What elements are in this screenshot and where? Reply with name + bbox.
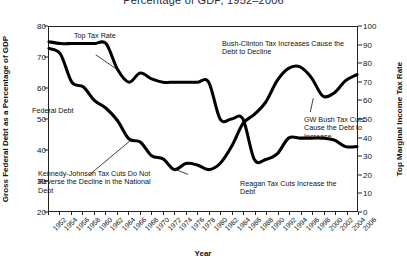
y-tick-mark-right [358, 81, 362, 82]
x-tick-mark [255, 212, 256, 215]
x-tick-mark [301, 212, 302, 215]
y-tick-mark-right [358, 63, 362, 64]
x-tick-mark [266, 212, 267, 215]
y-axis-left-title-text: Gross Federal Debt as a Percentage of GD… [1, 36, 10, 202]
x-tick-mark [117, 212, 118, 215]
x-tick-mark [82, 212, 83, 215]
x-tick-mark [289, 212, 290, 215]
y-tick-mark-right [358, 156, 362, 157]
y-tick-label-left: 20 [24, 208, 46, 217]
y-axis-right-title-text: Top Marginal Income Tax Rate [395, 62, 404, 176]
y-tick-label-right: 80 [363, 59, 385, 68]
y-tick-label-left: 60 [24, 84, 46, 93]
y-tick-label-left: 70 [24, 53, 46, 62]
x-tick-mark [105, 212, 106, 215]
y-tick-mark-right [358, 26, 362, 27]
annotation-top-tax-rate: Top Tax Rate [74, 32, 116, 40]
annotation-bush-clinton: Bush-Clinton Tax Increases Cause the Deb… [222, 40, 344, 57]
y-tick-mark-right [358, 174, 362, 175]
y-tick-label-right: 30 [363, 152, 385, 161]
y-tick-label-left: 40 [24, 146, 46, 155]
y-tick-mark-right [358, 44, 362, 45]
annotation-reagan: Reagan Tax Cuts Increase the Debt [240, 180, 337, 197]
x-axis-title: Year [48, 249, 358, 258]
y-axis-right-title: Top Marginal Income Tax Rate [392, 26, 406, 212]
x-tick-mark [324, 212, 325, 215]
y-tick-label-right: 90 [363, 40, 385, 49]
chart-title: Percentage of GDP, 1952–2006 [0, 0, 407, 6]
y-tick-label-right: 0 [363, 208, 385, 217]
x-tick-mark [335, 212, 336, 215]
y-tick-label-right: 60 [363, 96, 385, 105]
y-tick-label-right: 70 [363, 77, 385, 86]
x-tick-mark [278, 212, 279, 215]
annotation-kennedy-johnson: Kennedy-Johnson Tax Cuts Do Not Reverse … [38, 170, 151, 195]
y-tick-label-left: 80 [24, 22, 46, 31]
x-tick-mark [232, 212, 233, 215]
y-tick-label-right: 40 [363, 133, 385, 142]
y-tick-label-right: 20 [363, 170, 385, 179]
leader-line-gw-bush [310, 98, 313, 112]
x-tick-mark [128, 212, 129, 215]
y-tick-label-left: 50 [24, 115, 46, 124]
y-tick-mark-right [358, 100, 362, 101]
x-tick-mark [358, 212, 359, 215]
x-tick-mark [220, 212, 221, 215]
x-tick-mark [312, 212, 313, 215]
x-tick-mark [48, 212, 49, 215]
y-tick-mark-right [358, 193, 362, 194]
x-tick-mark [71, 212, 72, 215]
x-tick-mark [209, 212, 210, 215]
annotation-gw-bush: GW Bush Tax Cuts Cause the Debt to Incre… [304, 116, 365, 141]
x-tick-mark [186, 212, 187, 215]
x-tick-mark [163, 212, 164, 215]
y-tick-label-right: 100 [363, 22, 385, 31]
x-tick-mark [197, 212, 198, 215]
y-tick-label-right: 10 [363, 189, 385, 198]
x-tick-mark [151, 212, 152, 215]
x-tick-mark [243, 212, 244, 215]
x-tick-mark [140, 212, 141, 215]
x-tick-mark [174, 212, 175, 215]
y-tick-label-right: 50 [363, 115, 385, 124]
chart-container: Percentage of GDP, 1952–2006 Gross Feder… [0, 0, 407, 259]
x-tick-mark [59, 212, 60, 215]
x-tick-mark [347, 212, 348, 215]
y-axis-left-title: Gross Federal Debt as a Percentage of GD… [0, 26, 12, 212]
x-tick-mark [94, 212, 95, 215]
annotation-federal-debt: Federal Debt [32, 107, 74, 115]
